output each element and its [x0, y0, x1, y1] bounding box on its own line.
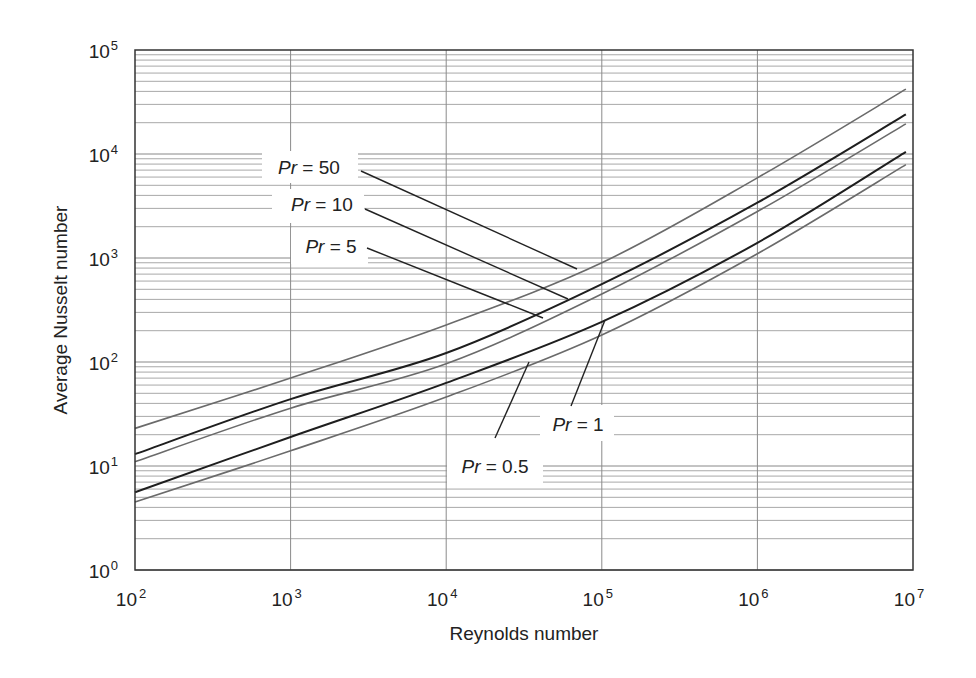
series-line-pr-50	[135, 89, 906, 428]
x-tick-label: 104	[427, 586, 457, 610]
series-label: Pr = 0.5	[461, 456, 528, 477]
series-line-pr-5	[135, 124, 906, 462]
y-tick-label: 102	[89, 350, 118, 374]
series-label: Pr = 1	[552, 414, 603, 435]
x-axis-label: Reynolds number	[450, 623, 600, 644]
y-tick-label: 105	[89, 38, 118, 62]
series-label: Pr = 50	[278, 157, 340, 178]
y-tick-label: 100	[89, 558, 118, 582]
x-tick-label: 102	[116, 586, 146, 610]
y-axis-label: Average Nusselt number	[50, 205, 71, 414]
y-axis-ticks: 100101102103104105	[89, 38, 118, 582]
x-tick-label: 107	[894, 586, 924, 610]
x-axis-ticks: 102103104105106107	[116, 586, 924, 610]
nusselt-vs-reynolds-chart: Pr = 50Pr = 10Pr = 5Pr = 1Pr = 0.5 10210…	[0, 0, 976, 678]
x-tick-label: 103	[271, 586, 301, 610]
x-tick-label: 106	[738, 586, 768, 610]
curves	[135, 89, 906, 502]
x-tick-label: 105	[583, 586, 613, 610]
series-annotations: Pr = 50Pr = 10Pr = 5Pr = 1Pr = 0.5	[262, 151, 614, 487]
y-tick-label: 103	[89, 246, 118, 270]
leader-line	[495, 362, 529, 438]
series-label: Pr = 10	[291, 194, 353, 215]
y-tick-label: 101	[89, 454, 118, 478]
series-label: Pr = 5	[305, 236, 356, 257]
y-tick-label: 104	[89, 142, 118, 166]
leader-line	[365, 209, 568, 299]
